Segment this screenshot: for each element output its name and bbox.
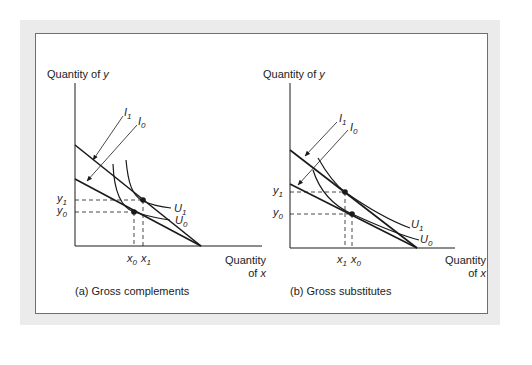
panel-b-y-axis-label: Quantity of y: [263, 68, 326, 80]
panel-a-indifference-curve-u0: [113, 164, 170, 220]
panel-a-x-axis-label-line2: of x: [248, 267, 266, 279]
panel-b-x1-tick: x1: [336, 253, 347, 268]
panel-a-x-axis-label-line1: Quantity: [225, 254, 266, 266]
panel-a-indifference-curve-u1: [126, 160, 171, 208]
panel-b-i1-label: I1: [339, 112, 347, 127]
panel-b-i1-arrow: [305, 122, 337, 156]
panel-b-i0-label: I0: [350, 121, 358, 136]
panel-b-x-axis-label-line2: of x: [468, 267, 486, 279]
panel-b-y0-tick: y0: [272, 206, 284, 221]
panel-a-point-x0-y0: [131, 209, 137, 215]
panel-b-y1-tick: y1: [272, 184, 283, 199]
panel-a-i1-label: I1: [124, 106, 132, 121]
panel-b-u0-label: U0: [420, 233, 433, 248]
panel-b-u1-label: U1: [411, 218, 423, 233]
panel-b-gross-substitutes: Quantity of y Quantity of x I1 I0 U1 U0 …: [263, 68, 487, 297]
panel-a-i1-arrow: [93, 116, 123, 160]
panel-b-point-x0-y0: [349, 211, 355, 217]
panel-b-x0-tick: x0: [350, 253, 362, 268]
panel-a-i0-label: I0: [138, 115, 146, 130]
panel-a-y-axis-label: Quantity of y: [47, 68, 110, 80]
panel-b-indifference-curve-u1: [318, 158, 410, 228]
panel-a-x1-tick: x1: [140, 252, 151, 267]
panel-b-i0-arrow: [298, 130, 348, 185]
panel-a-point-x1-y1: [140, 197, 146, 203]
panel-a-caption: (a) Gross complements: [75, 285, 190, 297]
panel-a-x0-tick: x0: [126, 252, 138, 267]
panel-b-point-x1-y1: [342, 189, 348, 195]
panel-a-budget-line-i1: [75, 145, 201, 246]
panel-b-x-axis-label-line1: Quantity: [445, 254, 486, 266]
panel-a-gross-complements: Quantity of y Quantity of x I1 I0 U1 U0 …: [47, 68, 267, 297]
panel-b-caption: (b) Gross substitutes: [290, 285, 392, 297]
economics-diagram: Quantity of y Quantity of x I1 I0 U1 U0 …: [0, 0, 532, 365]
panel-a-i0-arrow: [87, 125, 137, 181]
